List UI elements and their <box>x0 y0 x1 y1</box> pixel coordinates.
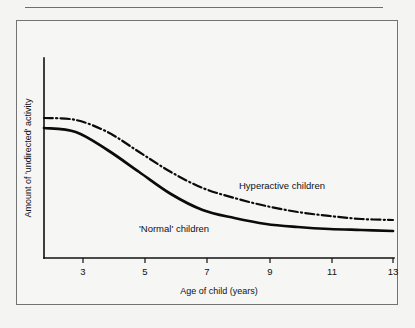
figure-frame-box <box>16 20 398 305</box>
figure-page: 3 5 7 9 11 13 Age of child (years) Amoun… <box>0 0 415 328</box>
top-horizontal-rule <box>25 7 383 8</box>
